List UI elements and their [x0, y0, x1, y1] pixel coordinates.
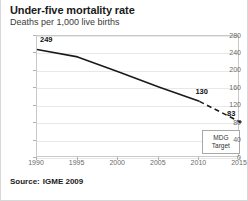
chart-subtitle: Deaths per 1,000 live births [10, 17, 120, 27]
y-tick-label-240: 240 [219, 49, 241, 56]
x-tick-mark-2005 [158, 157, 159, 160]
x-tick-label-2005: 2005 [145, 159, 171, 166]
source-note: Source:IGME 2009 [10, 177, 83, 186]
y-tick-label-160: 160 [219, 84, 241, 91]
x-tick-mark-2015 [239, 157, 240, 160]
x-tick-label-2015: 2015 [226, 159, 248, 166]
data-label-2015: 83 [227, 110, 235, 118]
y-tick-label-120: 120 [219, 101, 241, 108]
y-tick-mark-280 [33, 35, 36, 36]
data-label-1990: 249 [40, 36, 53, 44]
plot-frame: 24913083 MDG Target [36, 35, 239, 157]
series-line-0 [37, 50, 199, 102]
y-tick-label-200: 200 [219, 66, 241, 73]
y-tick-mark-120 [33, 105, 36, 106]
y-tick-mark-40 [33, 140, 36, 141]
source-label: Source: [10, 177, 40, 186]
x-tick-mark-1990 [36, 157, 37, 160]
y-tick-label-80: 80 [219, 119, 241, 126]
x-tick-label-1995: 1995 [64, 159, 90, 166]
x-tick-mark-2010 [198, 157, 199, 160]
y-tick-label-40: 40 [219, 136, 241, 143]
chart-title: Under-five mortality rate [10, 4, 135, 16]
y-tick-label-280: 280 [219, 32, 241, 39]
x-tick-label-2010: 2010 [185, 159, 211, 166]
x-tick-label-1990: 1990 [23, 159, 49, 166]
y-tick-mark-80 [33, 122, 36, 123]
data-label-2010: 130 [195, 88, 208, 96]
y-tick-mark-240 [33, 52, 36, 53]
chart-figure: Under-five mortality rate Deaths per 1,0… [0, 0, 248, 201]
y-tick-mark-160 [33, 87, 36, 88]
x-tick-label-2000: 2000 [104, 159, 130, 166]
y-tick-mark-200 [33, 70, 36, 71]
x-tick-mark-2000 [117, 157, 118, 160]
chart-plot-area: 24913083 MDG Target 04080120160200240280… [10, 31, 241, 171]
x-tick-mark-1995 [77, 157, 78, 160]
mdg-line2: Target [203, 142, 239, 150]
source-value: IGME 2009 [43, 177, 83, 186]
